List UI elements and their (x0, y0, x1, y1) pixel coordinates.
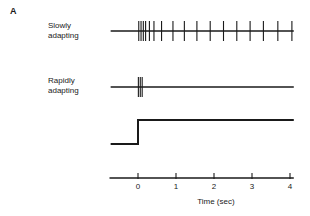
spike-train-slowly-adapting (111, 21, 294, 41)
axis-tick-label: 2 (212, 182, 217, 191)
time-axis: 01234Time (sec) (110, 173, 294, 206)
axis-tick-label: 4 (288, 182, 293, 191)
spike-train-rapidly-adapting (111, 77, 294, 97)
figure-panel-a: A Slowly adapting Rapidly adapting 01234… (0, 0, 310, 216)
axis-tick-label: 0 (136, 182, 141, 191)
axis-tick-label: 3 (250, 182, 255, 191)
figure-plot-area: 01234Time (sec) (0, 0, 310, 216)
stimulus-step-trace (111, 120, 294, 144)
axis-tick-label: 1 (174, 182, 179, 191)
axis-title: Time (sec) (197, 197, 235, 206)
